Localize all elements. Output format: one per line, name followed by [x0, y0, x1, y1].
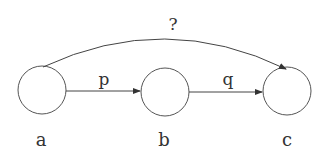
node-a [18, 66, 66, 114]
edge-label-p: p [99, 69, 110, 89]
edge-a-c [43, 39, 286, 69]
diagram-svg: p q ? a b c [0, 0, 327, 157]
node-label-a: a [36, 129, 47, 150]
edge-label-question: ? [168, 14, 177, 34]
node-label-b: b [158, 129, 170, 150]
edge-label-q: q [223, 69, 234, 89]
node-label-c: c [282, 129, 292, 150]
diagram-canvas: p q ? a b c [0, 0, 327, 157]
node-b [141, 68, 189, 116]
node-c [263, 67, 311, 115]
